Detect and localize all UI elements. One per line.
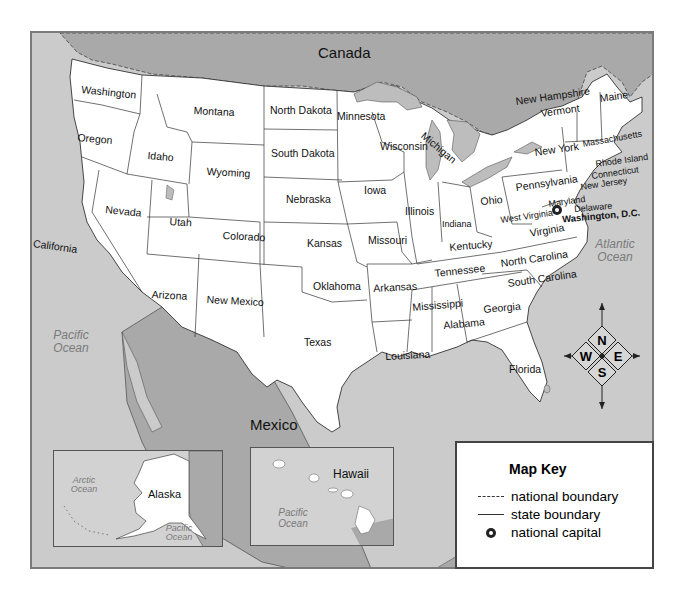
arctic-ocean-label: Arctic Ocean — [64, 476, 104, 495]
state-label: Oklahoma — [313, 281, 361, 292]
state-label: Iowa — [364, 185, 386, 196]
state-label: Missouri — [368, 235, 407, 246]
state-label: North Dakota — [270, 105, 332, 116]
compass-e: E — [614, 349, 623, 364]
state-label: Idaho — [147, 150, 174, 163]
compass-s: S — [598, 365, 607, 380]
state-label: Colorado — [222, 230, 265, 243]
state-label: New Mexico — [206, 294, 264, 307]
state-label: Nebraska — [286, 194, 331, 205]
hawaii-pacific-ocean-label: Pacific Ocean — [273, 508, 313, 529]
alaska-pacific-ocean-label: Pacific Ocean — [159, 524, 199, 543]
state-label: Montana — [193, 105, 234, 118]
map-key-row-national-capital: national capital — [477, 525, 601, 540]
map-key-label: national capital — [511, 525, 601, 540]
mexico-label: Mexico — [250, 417, 298, 432]
state-label: South Dakota — [271, 148, 335, 159]
map-key-label: state boundary — [511, 507, 600, 522]
state-label: Arkansas — [373, 281, 417, 294]
state-label: Wyoming — [206, 166, 250, 179]
state-label: Wisconsin — [380, 141, 428, 152]
state-label: Arizona — [151, 289, 187, 301]
map-key-title: Map Key — [509, 461, 567, 477]
pacific-ocean-label: Pacific Ocean — [50, 329, 92, 354]
state-label: Minnesota — [337, 111, 385, 122]
state-label: Florida — [509, 364, 541, 375]
atlantic-ocean-label: Atlantic Ocean — [590, 238, 640, 263]
dashed-line-icon — [477, 496, 505, 497]
canada-label: Canada — [318, 45, 371, 60]
solid-line-icon — [477, 514, 505, 515]
state-label: Texas — [304, 337, 331, 348]
state-label: Louisiana — [385, 349, 430, 362]
state-label: Kansas — [307, 238, 342, 249]
map-key: Map Key national boundary state boundary… — [455, 441, 654, 569]
map-key-row-national-boundary: national boundary — [477, 489, 618, 504]
compass-rose-icon: N S W E — [562, 301, 642, 411]
compass-n: N — [597, 333, 606, 348]
state-label: Illinois — [405, 206, 434, 217]
hawaii-inset: Hawaii Pacific Ocean — [250, 447, 394, 546]
state-label: Indiana — [442, 220, 472, 229]
state-label: Ohio — [480, 194, 503, 206]
compass-w: W — [580, 349, 593, 364]
state-label: Utah — [169, 216, 192, 228]
capital-star-icon — [477, 528, 505, 538]
hawaii-label: Hawaii — [333, 468, 369, 480]
state-label: Oregon — [77, 132, 113, 146]
map-key-label: national boundary — [511, 489, 618, 504]
capital-marker-icon — [552, 205, 562, 215]
alaska-label: Alaska — [148, 489, 181, 500]
map-key-row-state-boundary: state boundary — [477, 507, 600, 522]
alaska-inset: Arctic Ocean Alaska Pacific Ocean — [53, 450, 223, 547]
